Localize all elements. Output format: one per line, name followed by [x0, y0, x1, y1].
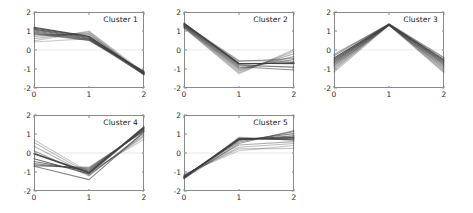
x-tick-mark	[89, 115, 90, 118]
y-tick-label: 0	[176, 149, 181, 158]
panel-title: Cluster 5	[253, 118, 288, 127]
y-tick-label: -1	[24, 168, 31, 177]
y-tick-mark	[34, 134, 37, 135]
y-tick-label: -2	[174, 84, 181, 93]
x-tick-mark	[239, 115, 240, 118]
x-tick-mark	[239, 12, 240, 15]
y-tick-mark	[292, 172, 295, 173]
x-tick-label: 0	[32, 193, 37, 202]
x-tick-mark	[389, 86, 390, 89]
panel-title: Cluster 2	[253, 15, 288, 24]
y-tick-label: 1	[326, 27, 331, 36]
y-tick-label: 2	[26, 111, 31, 120]
x-tick-mark	[144, 12, 145, 15]
y-tick-label: 0	[26, 46, 31, 55]
y-tick-label: 0	[326, 46, 331, 55]
y-tick-mark	[184, 153, 187, 154]
x-tick-label: 1	[237, 90, 242, 99]
chart-panel-5: -2-1012012Cluster 5	[184, 115, 294, 191]
y-tick-mark	[292, 31, 295, 32]
x-tick-label: 1	[387, 90, 392, 99]
y-tick-mark	[184, 69, 187, 70]
y-tick-mark	[34, 172, 37, 173]
y-tick-mark	[34, 50, 37, 51]
y-tick-mark	[142, 153, 145, 154]
y-tick-label: -1	[324, 65, 331, 74]
y-tick-mark	[292, 50, 295, 51]
chart-panel-4: -2-1012012Cluster 4	[34, 115, 144, 191]
x-tick-mark	[184, 12, 185, 15]
y-tick-mark	[334, 69, 337, 70]
y-tick-mark	[142, 50, 145, 51]
y-tick-mark	[34, 153, 37, 154]
x-tick-mark	[34, 115, 35, 118]
y-tick-mark	[184, 50, 187, 51]
y-tick-label: 1	[176, 130, 181, 139]
y-tick-mark	[442, 50, 445, 51]
y-tick-mark	[292, 153, 295, 154]
x-tick-mark	[294, 86, 295, 89]
x-tick-mark	[389, 12, 390, 15]
x-tick-mark	[184, 115, 185, 118]
chart-panel-1: -2-1012012Cluster 1	[34, 12, 144, 88]
x-tick-mark	[239, 189, 240, 192]
x-tick-label: 0	[182, 90, 187, 99]
x-tick-label: 0	[332, 90, 337, 99]
y-tick-label: 2	[326, 8, 331, 17]
x-tick-label: 1	[87, 193, 92, 202]
x-tick-label: 2	[292, 193, 297, 202]
x-tick-mark	[144, 86, 145, 89]
y-tick-mark	[292, 134, 295, 135]
x-tick-mark	[444, 12, 445, 15]
x-tick-mark	[334, 86, 335, 89]
y-tick-mark	[34, 31, 37, 32]
y-tick-label: -2	[324, 84, 331, 93]
y-tick-mark	[142, 172, 145, 173]
x-tick-label: 1	[87, 90, 92, 99]
y-tick-label: 1	[26, 27, 31, 36]
x-tick-mark	[89, 86, 90, 89]
panel-title: Cluster 4	[103, 118, 138, 127]
x-tick-label: 0	[182, 193, 187, 202]
x-tick-mark	[294, 115, 295, 118]
y-tick-mark	[334, 50, 337, 51]
series-line	[184, 145, 294, 174]
x-tick-label: 1	[237, 193, 242, 202]
y-tick-label: 2	[176, 111, 181, 120]
y-tick-mark	[184, 172, 187, 173]
y-tick-label: 2	[26, 8, 31, 17]
y-tick-mark	[142, 69, 145, 70]
y-tick-mark	[142, 31, 145, 32]
x-tick-label: 2	[142, 90, 147, 99]
y-tick-label: 1	[176, 27, 181, 36]
series-line	[184, 134, 294, 177]
y-tick-label: -1	[174, 168, 181, 177]
y-tick-label: 2	[176, 8, 181, 17]
panel-title: Cluster 3	[403, 15, 438, 24]
series-line	[34, 39, 144, 72]
chart-panel-2: -2-1012012Cluster 2	[184, 12, 294, 88]
y-tick-mark	[442, 31, 445, 32]
cluster-profiles-figure: -2-1012012Cluster 1-2-1012012Cluster 2-2…	[0, 0, 473, 213]
x-tick-mark	[184, 86, 185, 89]
x-tick-label: 0	[32, 90, 37, 99]
x-tick-mark	[34, 12, 35, 15]
x-tick-mark	[184, 189, 185, 192]
y-tick-label: -2	[24, 187, 31, 196]
x-tick-mark	[34, 189, 35, 192]
y-tick-mark	[184, 134, 187, 135]
x-tick-mark	[144, 189, 145, 192]
y-tick-label: -1	[24, 65, 31, 74]
series-line	[184, 148, 294, 175]
y-tick-mark	[184, 31, 187, 32]
y-tick-label: 1	[26, 130, 31, 139]
x-tick-mark	[294, 189, 295, 192]
x-tick-mark	[239, 86, 240, 89]
x-tick-mark	[294, 12, 295, 15]
y-tick-label: 0	[176, 46, 181, 55]
y-tick-mark	[442, 69, 445, 70]
y-tick-mark	[334, 31, 337, 32]
x-tick-label: 2	[142, 193, 147, 202]
y-tick-label: -2	[24, 84, 31, 93]
y-tick-mark	[292, 69, 295, 70]
